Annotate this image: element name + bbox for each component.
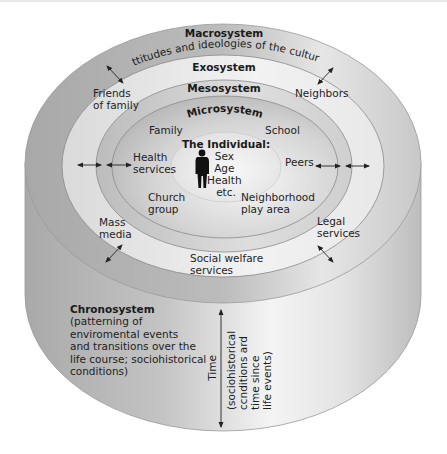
micro-item-school: School [265, 124, 300, 136]
exo-item-mass-media: Mass media [99, 216, 132, 240]
time-axis-label: Time [206, 355, 218, 382]
exo-item-neighbors: Neighbors [295, 87, 348, 99]
exo-item-friends-of-family: Friends of family [93, 87, 139, 111]
mesosystem-title: Mesosystem [187, 82, 261, 94]
ecological-systems-diagram: Macrosystem Attitudes and ideologies of … [0, 0, 447, 454]
micro-item-family: Family [149, 124, 183, 136]
exosystem-title: Exosystem [192, 61, 256, 73]
micro-item-health-services: Health services [133, 151, 176, 175]
micro-item-peers: Peers [285, 156, 314, 168]
individual-title: The Individual: [182, 138, 270, 150]
chronosystem-title: Chronosystem [70, 303, 155, 315]
